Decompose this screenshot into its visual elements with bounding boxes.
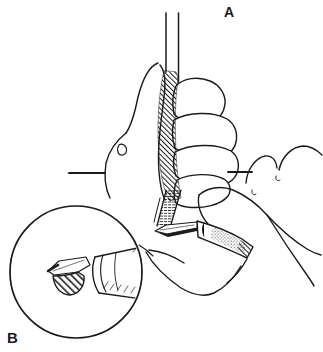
blade-tool: [155, 221, 253, 258]
thumb-palm-fill: [105, 63, 165, 207]
finger-crease-line: [267, 215, 314, 286]
inset: [10, 206, 143, 338]
tool-cone-band: [203, 223, 205, 236]
gripping-hand: [105, 63, 239, 208]
knuckle-bump-2: [279, 146, 322, 170]
knuckle-crease-mark-1: [276, 176, 280, 181]
medical-illustration: A B: [0, 0, 323, 352]
label-a: A: [224, 4, 234, 20]
pinky-finger-bulge: [174, 175, 230, 208]
cutting-thumb-top-edge: [149, 250, 184, 263]
knuckle-crease-mark-2: [252, 190, 256, 195]
cutting-thumb-outline: [146, 252, 241, 295]
cutting-hand: [139, 245, 247, 295]
tool-cone-shadow-hatch: [237, 240, 253, 258]
figure-illustration: A B: [0, 0, 323, 352]
label-b: B: [7, 329, 18, 346]
cutting-thumb-inner-line: [227, 259, 247, 283]
knuckle-bump-1: [246, 156, 277, 183]
